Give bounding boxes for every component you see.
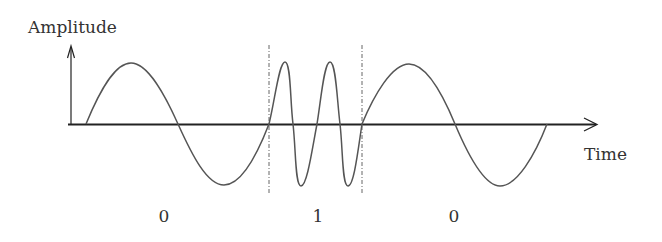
y-axis bbox=[68, 46, 75, 124]
fsk-diagram: Amplitude Time 0 1 0 bbox=[0, 0, 662, 242]
bit-label-2: 1 bbox=[313, 206, 324, 226]
bit-label-1: 0 bbox=[159, 206, 170, 226]
x-axis bbox=[68, 118, 597, 131]
y-axis-label: Amplitude bbox=[27, 17, 117, 37]
bit-dividers bbox=[269, 45, 362, 194]
bit-label-3: 0 bbox=[449, 206, 460, 226]
x-axis-label: Time bbox=[584, 144, 627, 164]
